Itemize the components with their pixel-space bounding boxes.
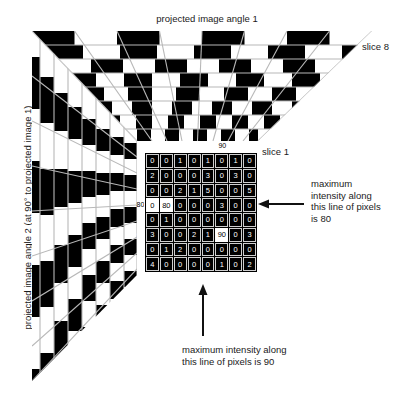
matrix-cell: 0 — [243, 154, 256, 168]
matrix-column-header: 3 — [230, 138, 244, 152]
matrix-cell: 0 — [160, 184, 173, 198]
matrix-cell: 0 — [160, 169, 173, 183]
matrix-cell: 2 — [243, 257, 256, 271]
matrix-cell: 0 — [174, 198, 187, 212]
matrix-cell: 0 — [174, 169, 187, 183]
matrix-cell: 2 — [174, 243, 187, 257]
matrix-column-header: 4 — [144, 138, 158, 152]
matrix-cell: 3 — [215, 198, 228, 212]
matrix-cell: 1 — [202, 154, 215, 168]
matrix-cell: 0 — [229, 198, 242, 212]
matrix-cell: 0 — [188, 198, 201, 212]
matrix-cell: 0 — [146, 213, 159, 227]
matrix-cell: 0 — [188, 257, 201, 271]
matrix-cell: 0 — [229, 257, 242, 271]
projected-image-angle-1-label: projected image angle 1 — [0, 13, 414, 25]
max-intensity-row-arrow — [258, 196, 304, 214]
matrix-cell: 1 — [215, 257, 228, 271]
matrix-column-header: 2 — [173, 138, 187, 152]
matrix-cell: 1 — [229, 154, 242, 168]
slice-1-label: slice 1 — [262, 146, 289, 158]
matrix-cell: 3 — [202, 169, 215, 183]
projected-image-angle-2-label: projected image angle 2 (at 90° to proje… — [22, 103, 33, 333]
matrix-cell: 2 — [188, 228, 201, 242]
matrix-cell: 0 — [215, 154, 228, 168]
figure-canvas: projected image angle 1 projected image … — [0, 0, 414, 397]
matrix-cell: 0 — [160, 154, 173, 168]
matrix-cell: 80 — [160, 198, 173, 212]
matrix-cell: 0 — [146, 154, 159, 168]
matrix-cell: 0 — [188, 243, 201, 257]
matrix-cell: 0 — [215, 184, 228, 198]
max-intensity-column-annotation: maximum intensity along this line of pix… — [182, 344, 287, 367]
matrix-column-header: 5 — [244, 138, 258, 152]
matrix-cell: 0 — [229, 184, 242, 198]
matrix-cell: 0 — [188, 169, 201, 183]
matrix-column-header: 90 — [215, 138, 229, 152]
matrix-cell: 0 — [174, 228, 187, 242]
matrix-column-header: 6 — [201, 138, 215, 152]
matrix-cell: 0 — [215, 169, 228, 183]
matrix-cell: 0 — [215, 243, 228, 257]
matrix-cell: 0 — [229, 228, 242, 242]
matrix-cell: 0 — [174, 257, 187, 271]
matrix-cell: 0 — [202, 257, 215, 271]
matrix-cell: 3 — [243, 228, 256, 242]
matrix-cell: 0 — [202, 213, 215, 227]
matrix-cell: 0 — [229, 243, 242, 257]
matrix-cell: 1 — [160, 243, 173, 257]
matrix-cell: 0 — [160, 257, 173, 271]
matrix-cell: 5 — [243, 184, 256, 198]
matrix-column-header: 2 — [187, 138, 201, 152]
max-intensity-row-annotation: maximum intensity along this line of pix… — [311, 178, 381, 224]
pixel-value-matrix: 4802269035 1358019024 001010102000303000… — [136, 138, 258, 273]
matrix-cell: 1 — [174, 154, 187, 168]
matrix-cell: 1 — [160, 213, 173, 227]
matrix-cell: 0 — [243, 198, 256, 212]
matrix-cell: 0 — [174, 213, 187, 227]
matrix-cell: 0 — [243, 169, 256, 183]
matrix-cell: 0 — [229, 213, 242, 227]
max-intensity-column-arrow — [197, 284, 209, 340]
matrix-cell: 0 — [202, 198, 215, 212]
matrix-cell: 0 — [160, 228, 173, 242]
matrix-cell: 0 — [188, 213, 201, 227]
matrix-cell: 0 — [146, 198, 159, 212]
matrix-cell: 0 — [202, 243, 215, 257]
matrix-cell: 4 — [146, 257, 159, 271]
matrix-cell: 1 — [202, 228, 215, 242]
matrix-column-header: 80 — [158, 138, 172, 152]
matrix-column-headers: 4802269035 — [144, 138, 258, 152]
matrix-cell: 3 — [229, 169, 242, 183]
matrix-cell: 2 — [146, 169, 159, 183]
matrix-cells: 0010101020003030002150050800003000100000… — [144, 152, 258, 273]
matrix-cell: 0 — [243, 213, 256, 227]
matrix-cell: 5 — [202, 184, 215, 198]
matrix-cell: 0 — [146, 243, 159, 257]
matrix-cell: 2 — [174, 184, 187, 198]
matrix-cell: 0 — [146, 184, 159, 198]
matrix-cell: 3 — [146, 228, 159, 242]
matrix-cell: 90 — [215, 228, 228, 242]
matrix-cell: 1 — [188, 184, 201, 198]
matrix-cell: 0 — [243, 243, 256, 257]
matrix-cell: 0 — [188, 154, 201, 168]
slice-8-label: slice 8 — [362, 41, 389, 53]
matrix-cell: 0 — [215, 213, 228, 227]
